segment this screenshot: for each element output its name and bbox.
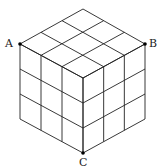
point-c [81, 151, 85, 155]
label-a: A [5, 38, 13, 49]
cube-grid-lines [20, 9, 145, 153]
point-a [18, 42, 22, 46]
label-b: B [149, 38, 157, 49]
point-b [143, 42, 147, 46]
label-c: C [79, 157, 87, 167]
cube-diagram [0, 0, 159, 167]
